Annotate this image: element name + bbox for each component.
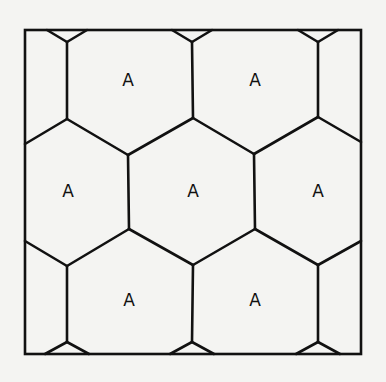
hexagon-edge <box>192 42 193 118</box>
hexagon-edge <box>25 119 67 144</box>
cell-label-top-left: A <box>122 70 134 90</box>
hexagon-edge <box>296 342 318 354</box>
hexagon-edge <box>193 118 254 154</box>
hexagon-edge <box>318 241 361 265</box>
cell-label-middle-center: A <box>187 181 199 201</box>
hexagon-edge <box>318 117 361 142</box>
hexagon-edge <box>254 154 255 229</box>
hexagon-edge <box>192 265 193 342</box>
hexagon-edge <box>128 155 129 229</box>
hexagon-edge <box>129 229 193 265</box>
hexagon-edge <box>170 342 192 354</box>
cell-label-top-right: A <box>249 70 261 90</box>
hexagon-edge <box>318 342 340 354</box>
hexagon-edge <box>192 342 214 354</box>
hexagon-edge <box>298 30 318 42</box>
hexagon-edge <box>25 241 67 266</box>
hexagon-edge <box>45 342 67 354</box>
hexagon-edge <box>128 118 193 155</box>
hexagon-edge <box>172 30 192 42</box>
hexagon-edge <box>255 229 318 265</box>
hexagon-edge <box>67 229 129 266</box>
hexagon-edge <box>318 30 338 42</box>
hexagon-edge <box>67 119 128 155</box>
cell-label-bottom-right: A <box>249 290 261 310</box>
hexagonal-tiling-diagram: A A A A A A A <box>0 0 386 382</box>
hexagon-edge <box>193 229 255 265</box>
hexagon-edge <box>254 117 318 154</box>
cell-label-middle-left: A <box>62 181 74 201</box>
hexagon-edge <box>67 342 89 354</box>
hexagon-edge <box>47 30 67 42</box>
cell-label-middle-right: A <box>312 181 324 201</box>
cell-label-bottom-left: A <box>123 290 135 310</box>
hexagon-edge <box>67 30 87 42</box>
hexagon-edge <box>192 30 212 42</box>
